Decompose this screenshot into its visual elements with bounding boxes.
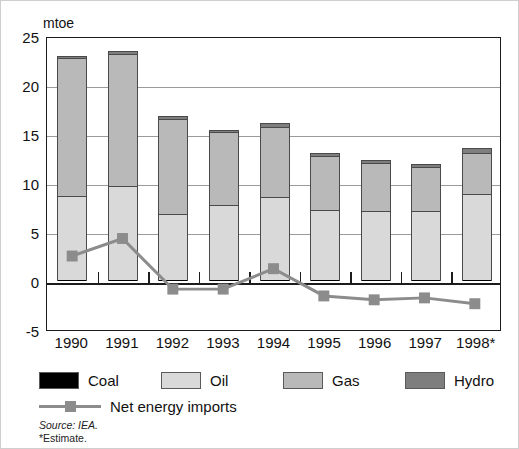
- source-note: Source: IEA.: [39, 419, 98, 432]
- y-tick-label: 5: [5, 225, 39, 242]
- x-tick-label: 1995: [307, 334, 340, 351]
- y-tick-label: 10: [5, 176, 39, 193]
- line-marker: [218, 284, 229, 295]
- line-marker: [318, 290, 329, 301]
- line-marker: [268, 263, 279, 274]
- x-tick-label: 1997: [408, 334, 441, 351]
- x-tick-label: 1990: [55, 334, 88, 351]
- y-axis-unit-label: mtoe: [43, 15, 74, 31]
- line-marker: [167, 284, 178, 295]
- x-tick-label: 1992: [156, 334, 189, 351]
- x-tick-label: 1998*: [456, 334, 495, 351]
- x-tick-label: 1991: [105, 334, 138, 351]
- legend-item-coal: Coal: [39, 367, 119, 393]
- line-swatch-icon: [39, 398, 101, 415]
- line-marker: [67, 251, 78, 262]
- legend-row-line: Net energy imports: [39, 393, 479, 419]
- line-marker: [369, 294, 380, 305]
- legend-label-oil: Oil: [210, 372, 228, 389]
- legend-swatch-gas: [283, 372, 323, 389]
- estimate-note: *Estimate.: [39, 432, 98, 445]
- legend-label-gas: Gas: [332, 372, 360, 389]
- x-tick-label: 1993: [206, 334, 239, 351]
- y-tick-label: 15: [5, 127, 39, 144]
- legend-swatch-coal: [39, 372, 79, 389]
- x-axis-tick-labels: 199019911992199319941995199619971998*: [46, 334, 501, 358]
- legend-item-hydro: Hydro: [405, 367, 494, 393]
- plot-inner: [47, 38, 500, 330]
- legend-swatch-hydro: [405, 372, 445, 389]
- figure-notes: Source: IEA. *Estimate.: [39, 419, 98, 445]
- line-marker: [117, 233, 128, 244]
- y-tick-label: 20: [5, 78, 39, 95]
- net-energy-imports-line: [47, 38, 500, 330]
- legend-label-hydro: Hydro: [454, 372, 494, 389]
- y-tick-label: 0: [5, 274, 39, 291]
- legend-item-gas: Gas: [283, 367, 360, 393]
- legend-row-fuels: CoalOilGasHydro: [39, 367, 479, 393]
- legend-label-net-energy-imports: Net energy imports: [110, 398, 237, 415]
- chart-figure: mtoe 2520151050-5 1990199119921993199419…: [0, 0, 519, 449]
- x-tick-label: 1996: [358, 334, 391, 351]
- y-tick-label: -5: [5, 323, 39, 340]
- y-tick-label: 25: [5, 29, 39, 46]
- line-marker: [469, 298, 480, 309]
- line-marker: [419, 292, 430, 303]
- legend-swatch-oil: [161, 372, 201, 389]
- legend-item-net-energy-imports: Net energy imports: [39, 393, 237, 419]
- legend-label-coal: Coal: [88, 372, 119, 389]
- chart-legend: CoalOilGasHydro Net energy imports: [39, 367, 479, 419]
- plot-area: [46, 37, 501, 331]
- y-axis-tick-labels: 2520151050-5: [1, 37, 39, 331]
- x-tick-label: 1994: [257, 334, 290, 351]
- legend-item-oil: Oil: [161, 367, 228, 393]
